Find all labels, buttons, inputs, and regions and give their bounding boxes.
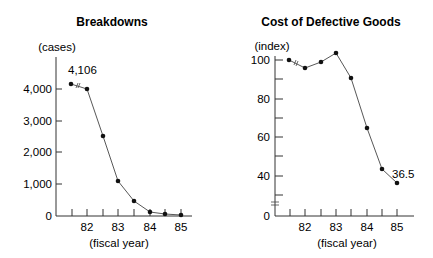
x-tick-label: 84	[361, 221, 374, 233]
y-tick-label: 4,000	[23, 83, 52, 95]
x-tick-label: 83	[330, 221, 343, 233]
y-tick-label: 2,000	[23, 146, 52, 158]
y-tick-label: 1,000	[23, 178, 52, 190]
data-points	[287, 51, 400, 186]
defective-goods-chart: Cost of Defective Goods (index) 100 80 6…	[251, 15, 415, 249]
y-tick-label: 80	[257, 93, 270, 105]
y-axis-unit: (cases)	[38, 41, 76, 53]
x-tick-label: 83	[112, 221, 125, 233]
data-annotation: 4,106	[68, 64, 97, 76]
x-ticks	[290, 209, 397, 216]
x-tick-label: 85	[391, 221, 404, 233]
x-tick-label: 82	[299, 221, 312, 233]
x-axis-label: (fiscal year)	[317, 237, 377, 249]
y-tick-label: 3,000	[23, 115, 52, 127]
chart-title: Breakdowns	[76, 15, 148, 29]
chart-title: Cost of Defective Goods	[261, 15, 401, 29]
data-line	[289, 53, 397, 183]
data-points	[69, 82, 184, 218]
breakdowns-chart: Breakdowns (cases) 4,000 3,000 2,000 1,0…	[23, 15, 192, 249]
y-ticks	[275, 60, 283, 195]
charts-canvas: Breakdowns (cases) 4,000 3,000 2,000 1,0…	[0, 0, 433, 258]
data-line	[71, 84, 181, 215]
data-annotation: 36.5	[392, 168, 414, 180]
y-tick-label: 40	[257, 170, 270, 182]
y-ticks	[56, 89, 62, 184]
y-tick-label: 0	[46, 210, 52, 222]
axis-break-mark	[76, 83, 80, 88]
x-axis-label: (fiscal year)	[89, 237, 149, 249]
y-tick-label: 60	[257, 131, 270, 143]
y-tick-label: 0	[264, 210, 270, 222]
y-axis-unit: (index)	[254, 40, 289, 52]
x-tick-label: 82	[81, 221, 94, 233]
x-tick-label: 84	[144, 221, 157, 233]
x-tick-label: 85	[175, 221, 188, 233]
y-tick-label: 100	[251, 54, 270, 66]
